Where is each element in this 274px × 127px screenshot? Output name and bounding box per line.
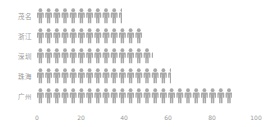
icon-bar: [37, 8, 122, 24]
pictorial-bar-chart: 茂名 浙江 深圳 珠海 广州 0 20 40 60 80 100: [0, 0, 274, 127]
category-label: 珠海: [18, 71, 32, 81]
person-icon-repeat: [37, 28, 142, 44]
chart-row-maoming: 茂名: [0, 8, 274, 24]
category-label: 浙江: [18, 31, 32, 41]
category-label: 茂名: [18, 11, 32, 21]
x-tick-label: 0: [35, 114, 39, 121]
person-icon-repeat: [37, 88, 232, 104]
icon-bar: [37, 88, 232, 104]
category-label: 广州: [18, 91, 32, 101]
x-tick-label: 40: [120, 114, 128, 121]
x-tick-label: 80: [208, 114, 216, 121]
chart-row-zhuhai: 珠海: [0, 68, 274, 84]
icon-bar: [37, 68, 171, 84]
person-icon-repeat: [37, 68, 171, 84]
person-icon-repeat: [37, 48, 153, 64]
chart-row-shenzhen: 深圳: [0, 48, 274, 64]
person-icon-repeat: [37, 8, 122, 24]
x-tick-label: 20: [77, 114, 85, 121]
chart-row-zhejiang: 浙江: [0, 28, 274, 44]
icon-bar: [37, 28, 142, 44]
x-tick-label: 60: [164, 114, 172, 121]
x-tick-label: 100: [250, 114, 261, 121]
icon-bar: [37, 48, 153, 64]
category-label: 深圳: [18, 51, 32, 61]
chart-row-guangzhou: 广州: [0, 88, 274, 104]
